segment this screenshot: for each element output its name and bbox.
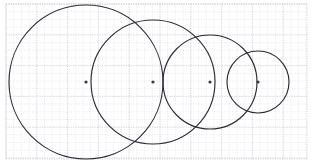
figure-background	[0, 0, 313, 164]
center-marker	[151, 80, 154, 83]
center-marker	[256, 80, 259, 83]
circles-figure	[0, 0, 313, 164]
figure-canvas	[0, 0, 313, 164]
center-marker	[84, 80, 87, 83]
center-marker	[208, 80, 211, 83]
